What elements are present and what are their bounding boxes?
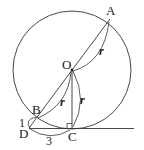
measure-OC: r — [80, 93, 85, 107]
label-B: B — [32, 102, 41, 117]
measure-OB: r — [60, 95, 65, 109]
brace-DB — [28, 117, 36, 128]
brace-OB — [38, 72, 71, 118]
measure-DB: 1 — [19, 116, 25, 130]
geometry-diagram: A O B D C r r r 1 3 — [0, 0, 144, 150]
measure-OA: r — [99, 44, 104, 58]
label-C: C — [68, 129, 77, 144]
diagram-canvas: A O B D C r r r 1 3 — [0, 0, 144, 150]
right-angle-marker — [67, 124, 72, 129]
secant-line-DA — [29, 19, 110, 128]
measure-DC: 3 — [46, 134, 52, 148]
label-A: A — [106, 3, 116, 18]
label-O: O — [62, 57, 71, 72]
